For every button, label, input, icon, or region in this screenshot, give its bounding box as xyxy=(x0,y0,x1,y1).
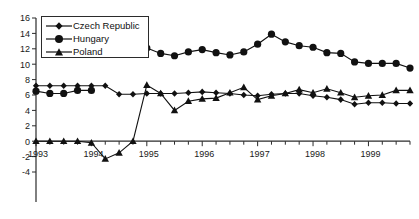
data-point xyxy=(157,50,164,57)
legend-item-hungary: Hungary xyxy=(45,32,145,45)
legend-label-poland: Poland xyxy=(73,46,103,58)
x-tick-label: 1999 xyxy=(360,149,380,159)
data-point xyxy=(351,58,358,65)
data-point xyxy=(351,101,357,108)
data-point xyxy=(241,92,247,99)
data-point xyxy=(365,99,371,106)
data-point xyxy=(254,41,261,48)
data-point xyxy=(393,60,400,67)
x-tick-label: 1993 xyxy=(28,149,48,159)
y-tick-label: 10 xyxy=(20,60,30,70)
diamond-marker-icon xyxy=(45,20,73,32)
legend-item-czech-republic: Czech Republic xyxy=(45,19,145,32)
data-point xyxy=(171,90,177,97)
data-point xyxy=(268,31,275,38)
data-point xyxy=(74,87,81,94)
data-point xyxy=(295,86,302,93)
data-point xyxy=(199,89,205,96)
data-point xyxy=(143,81,150,88)
data-point xyxy=(88,87,95,94)
y-tick-label: 0 xyxy=(25,137,30,147)
x-tick-label: 1998 xyxy=(305,149,325,159)
data-point xyxy=(102,82,108,89)
x-tick-label: 1997 xyxy=(250,149,270,159)
triangle-marker-icon xyxy=(45,46,73,58)
data-point xyxy=(240,48,247,55)
data-point xyxy=(199,46,206,53)
data-point xyxy=(337,50,344,57)
data-point xyxy=(185,89,191,96)
y-tick-label: 4 xyxy=(25,106,30,116)
y-tick-label: -4 xyxy=(22,167,30,177)
legend-item-poland: Poland xyxy=(45,45,145,58)
data-point xyxy=(32,88,39,95)
data-point xyxy=(116,91,122,98)
chart-legend: Czech Republic Hungary Poland xyxy=(41,16,149,58)
data-point xyxy=(407,100,413,107)
x-tick-label: 1996 xyxy=(194,149,214,159)
y-tick-label: 14 xyxy=(20,29,30,39)
legend-label-czech-republic: Czech Republic xyxy=(73,20,140,32)
data-point xyxy=(47,82,53,89)
data-point xyxy=(60,90,67,97)
data-point xyxy=(379,99,385,106)
data-point xyxy=(185,48,192,55)
x-tick-label: 1994 xyxy=(83,149,103,159)
data-point xyxy=(130,91,136,98)
data-point xyxy=(365,60,372,67)
data-point xyxy=(296,42,303,49)
data-point xyxy=(46,90,53,97)
x-tick-label: 1995 xyxy=(139,149,159,159)
data-point xyxy=(393,100,399,107)
data-point xyxy=(379,60,386,67)
y-tick-label: 16 xyxy=(20,13,30,23)
data-point xyxy=(282,38,289,45)
data-point xyxy=(61,82,67,89)
data-point xyxy=(324,94,330,101)
y-tick-label: 12 xyxy=(20,44,30,54)
data-point xyxy=(338,96,344,103)
data-point xyxy=(171,52,178,59)
y-tick-label: 8 xyxy=(25,75,30,85)
data-point xyxy=(212,49,219,56)
data-point xyxy=(226,51,233,58)
legend-label-hungary: Hungary xyxy=(73,33,109,45)
data-point xyxy=(323,49,330,56)
y-tick-label: 6 xyxy=(25,90,30,100)
data-point xyxy=(309,44,316,51)
data-point xyxy=(323,85,330,92)
data-point xyxy=(240,84,247,91)
circle-marker-icon xyxy=(45,33,73,45)
y-tick-label: 2 xyxy=(25,121,30,131)
line-chart: 1614121086420-2-419931994199519961997199… xyxy=(0,0,419,219)
data-point xyxy=(406,64,413,71)
